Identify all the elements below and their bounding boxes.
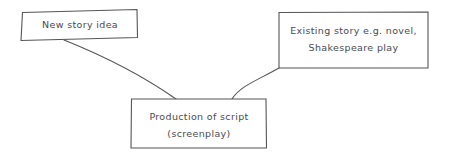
node-production-of-script-line-2: (screenplay) (167, 128, 230, 139)
flowchart-canvas: New story idea Existing story e.g. novel… (0, 0, 458, 160)
node-existing-story-shape (279, 12, 428, 68)
node-production-of-script-shape (131, 99, 267, 148)
connector-new-story-idea-to-production (64, 40, 176, 99)
node-production-of-script[interactable]: Production of script (screenplay) (131, 99, 267, 148)
connector-existing-story-to-production (232, 68, 279, 99)
node-existing-story-line-2: Shakespeare play (309, 42, 399, 53)
node-existing-story[interactable]: Existing story e.g. novel, Shakespeare p… (279, 12, 428, 68)
node-new-story-idea-line-1: New story idea (42, 19, 118, 30)
node-new-story-idea[interactable]: New story idea (21, 10, 138, 41)
node-existing-story-line-1: Existing story e.g. novel, (290, 25, 417, 36)
node-production-of-script-line-1: Production of script (149, 111, 248, 122)
